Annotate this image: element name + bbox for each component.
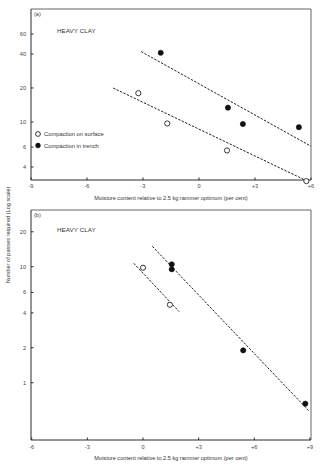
y-tick-label: 40: [20, 51, 26, 57]
panel-tag: (b): [34, 212, 41, 218]
surface-data-point: [136, 91, 141, 96]
y-tick-label: 10: [20, 119, 26, 125]
y-tick-label: 20: [20, 229, 26, 235]
trench-data-point: [240, 121, 245, 126]
trench-data-point: [169, 262, 174, 267]
plot-frame: [31, 9, 311, 180]
trench-data-point: [169, 267, 174, 272]
legend-label: Compaction on surface: [44, 131, 104, 137]
x-tick-label: -6: [29, 444, 34, 450]
legend: Compaction on surfaceCompaction in trenc…: [36, 131, 104, 149]
x-axis-label: Moisture content relative to 2.5 kg ramm…: [94, 455, 247, 461]
filled-circle-icon: [36, 143, 41, 148]
y-tick-label: 1: [23, 380, 26, 386]
y-tick-label: 4: [23, 310, 26, 316]
figure: 4610204060-9-6-30+3+6(a)HEAVY CLAYMoistu…: [0, 0, 322, 470]
panel-a: 4610204060-9-6-30+3+6(a)HEAVY CLAYMoistu…: [20, 9, 314, 201]
trench-fit-line: [152, 246, 309, 411]
x-tick-label: +6: [251, 444, 257, 450]
soil-type-label: HEAVY CLAY: [57, 27, 96, 34]
y-tick-label: 2: [23, 345, 26, 351]
x-tick-label: -3: [140, 183, 145, 189]
surface-data-point: [167, 302, 172, 307]
y-tick-label: 10: [20, 264, 26, 270]
soil-type-label: HEAVY CLAY: [57, 226, 96, 233]
surface-data-point: [224, 148, 229, 153]
x-tick-label: -9: [28, 183, 33, 189]
hollow-circle-icon: [36, 132, 41, 137]
panel-tag: (a): [34, 11, 41, 17]
surface-data-point: [140, 265, 145, 270]
y-tick-label: 6: [23, 289, 26, 295]
y-tick-label: 60: [20, 31, 26, 37]
surface-fit-line: [113, 88, 307, 181]
trench-data-point: [296, 125, 301, 130]
trench-data-point: [241, 348, 246, 353]
y-tick-label: 6: [23, 144, 26, 150]
surface-data-point: [165, 121, 170, 126]
x-tick-label: 0: [141, 444, 144, 450]
chart-canvas: 4610204060-9-6-30+3+6(a)HEAVY CLAYMoistu…: [0, 0, 322, 470]
trench-data-point: [225, 105, 230, 110]
x-tick-label: +3: [252, 183, 258, 189]
x-tick-label: -6: [84, 183, 89, 189]
y-tick-label: 20: [20, 85, 26, 91]
trench-data-point: [303, 401, 308, 406]
plot-frame: [31, 210, 311, 440]
x-tick-label: -3: [85, 444, 90, 450]
y-axis-label: Number of passes required (Log scale): [5, 187, 11, 284]
trench-data-point: [158, 50, 163, 55]
panel-b: 12461020-6-30+3+6+9(b)HEAVY CLAYMoisture…: [20, 210, 313, 461]
surface-data-point: [304, 178, 309, 183]
y-tick-label: 4: [23, 164, 26, 170]
legend-label: Compaction in trench: [44, 143, 99, 149]
x-tick-label: +3: [195, 444, 201, 450]
x-tick-label: +9: [307, 444, 313, 450]
x-axis-label: Moisture content relative to 2.5 kg ramm…: [94, 195, 247, 201]
x-tick-label: 0: [197, 183, 200, 189]
x-tick-label: +6: [308, 183, 314, 189]
trench-fit-line: [141, 52, 311, 147]
